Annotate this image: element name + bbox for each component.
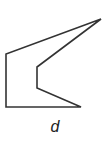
figure-canvas: d — [0, 0, 111, 141]
figure-label: d — [51, 118, 61, 135]
concave-polygon — [6, 19, 101, 107]
